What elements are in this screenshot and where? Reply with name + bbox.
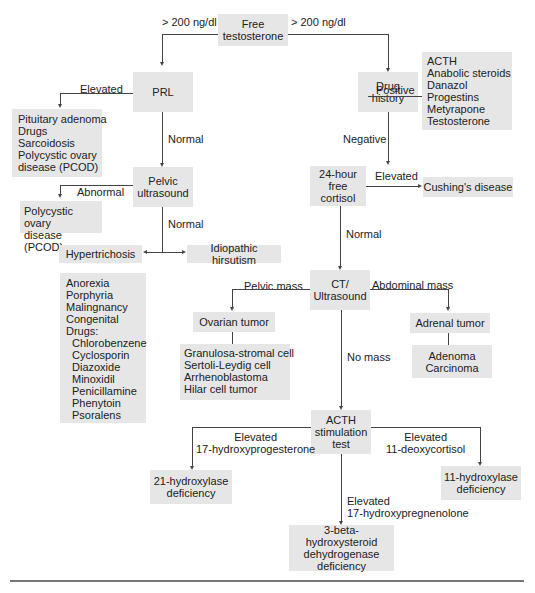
edge-label-no-mass: No mass: [347, 351, 390, 363]
arrow-down-icon: [58, 194, 62, 198]
edge-label-pelvic-normal: Normal: [168, 218, 203, 230]
node-acth-stimulation-test: ACTH stimulation test: [311, 410, 371, 454]
connector: [162, 34, 218, 35]
connector: [232, 332, 233, 344]
connector: [60, 185, 133, 186]
node-pcod: Polycystic ovary disease (PCOD): [20, 201, 102, 233]
connector: [192, 427, 311, 428]
connector: [146, 252, 182, 253]
connector: [448, 289, 449, 308]
edge-label-prl-normal: Normal: [168, 133, 203, 145]
node-21-hydroxylase-deficiency: 21-hydroxylase deficiency: [150, 470, 232, 504]
arrow-left-icon: [143, 250, 147, 254]
node-free-testosterone: Free testosterone: [218, 14, 288, 46]
arrow-down-icon: [386, 161, 390, 165]
edge-label-gt200-left: > 200 ng/dl: [162, 16, 217, 28]
list-drug-positive: ACTHAnabolic steroidsDanazolProgestinsMe…: [422, 52, 512, 130]
node-prl: PRL: [133, 72, 193, 112]
connector: [162, 34, 163, 64]
node-ovarian-tumor: Ovarian tumor: [193, 312, 275, 332]
connector: [366, 186, 418, 187]
connector: [340, 206, 341, 268]
list-ovarian-tumor-types: Granulosa-stromal cellSertoli-Leydig cel…: [180, 344, 290, 400]
connector: [232, 289, 233, 308]
arrow-down-icon: [230, 307, 234, 311]
bottom-rule: [10, 580, 524, 582]
node-24h-free-cortisol: 24-hour free cortisol: [310, 166, 366, 206]
connector: [232, 289, 310, 290]
arrow-right-icon: [418, 184, 422, 188]
connector: [480, 427, 481, 463]
connector: [192, 427, 193, 467]
node-ct-ultrasound: CT/ Ultrasound: [310, 270, 370, 310]
edge-label-11-deoxycortisol: Elevated 11-deoxycortisol: [386, 431, 465, 455]
connector: [162, 112, 163, 164]
edge-label-gt200-right: > 200 ng/dl: [291, 16, 346, 28]
edge-label-17-hydroxyprogesterone: Elevated 17-hydroxyprogesterone: [196, 431, 315, 455]
connector: [288, 34, 388, 35]
node-adrenal-tumor: Adrenal tumor: [410, 313, 490, 333]
arrow-down-icon: [160, 62, 164, 66]
node-3-beta-hsd-deficiency: 3-beta-hydroxysteroid dehydrogenase defi…: [289, 525, 394, 571]
edge-label-cortisol-normal: Normal: [346, 228, 381, 240]
edge-label-drug-negative: Negative: [343, 133, 386, 145]
list-hypertrichosis-causes: AnorexiaPorphyriaMalingnancyCongenitalDr…: [60, 273, 146, 423]
connector: [162, 207, 163, 252]
arrow-down-icon: [446, 307, 450, 311]
node-pelvic-ultrasound: Pelvic ultrasound: [133, 167, 193, 207]
node-cushings-disease: Cushing's disease: [423, 177, 513, 197]
list-prl-elevated-causes: Pituitary adenomaDrugsSarcoidosisPolycys…: [12, 109, 102, 177]
edge-label-cortisol-elevated: Elevated: [375, 170, 418, 182]
connector: [341, 310, 342, 407]
connector: [368, 96, 426, 97]
arrow-down-icon: [58, 104, 62, 108]
edge-label-pelvic-abnormal: Abnormal: [77, 186, 124, 198]
connector: [388, 112, 389, 162]
node-hypertrichosis: Hypertrichosis: [59, 245, 142, 263]
connector: [60, 93, 133, 94]
connector: [448, 333, 449, 345]
edge-label-pelvic-mass: Pelvic mass: [244, 280, 303, 292]
list-adrenal-tumor-types: AdenomaCarcinoma: [412, 345, 492, 378]
connector: [341, 454, 342, 522]
node-idiopathic-hirsutism: Idiopathic hirsutism: [187, 245, 281, 263]
edge-label-17-hydroxypregnenolone: Elevated 17-hydroxypregnenolone: [347, 495, 469, 519]
arrow-right-icon: [182, 250, 186, 254]
connector: [370, 289, 449, 290]
connector: [388, 34, 389, 69]
edge-label-drug-positive: Positive: [376, 84, 415, 96]
connector: [371, 427, 481, 428]
